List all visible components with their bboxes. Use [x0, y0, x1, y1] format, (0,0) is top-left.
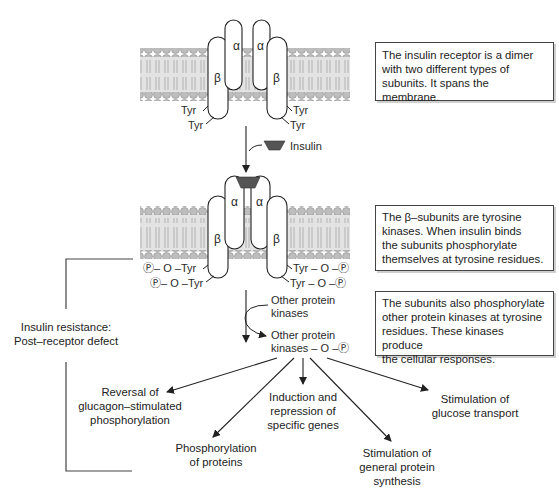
kinase-active-line2: kinases – O –Ⓟ — [271, 342, 349, 354]
tyr-label: Tyr — [293, 104, 309, 116]
info-box-receptor-structure: The insulin receptor is a dimer with two… — [375, 42, 554, 101]
info-text: The insulin receptor is a dimer — [382, 48, 547, 62]
label-line: Induction and — [258, 390, 348, 404]
beta-label: β — [273, 71, 280, 85]
label-line: Stimulation of — [425, 392, 525, 406]
info-box-downstream-kinases: The subunits also phosphorylate other pr… — [375, 291, 554, 356]
label-line: phosphorylation — [70, 413, 190, 427]
label-line: Stimulation of — [352, 446, 442, 460]
membrane-top — [140, 48, 350, 101]
label-line: general protein — [352, 460, 442, 474]
label-line: Post–receptor defect — [0, 334, 132, 348]
info-text: the subunits phosphorylate — [382, 238, 547, 252]
info-text: The subunits also phosphorylate — [382, 296, 547, 310]
tyr-label: Tyr — [181, 104, 197, 116]
outcome-glucose-transport: Stimulation of glucose transport — [425, 392, 525, 420]
phospho-tyr-left: Ⓟ– O –Tyr — [143, 262, 197, 274]
info-text: The β–subunits are tyrosine — [382, 210, 547, 224]
outcome-phosphorylation-proteins: Phosphorylation of proteins — [166, 441, 266, 469]
info-text: other protein kinases at tyrosine — [382, 310, 547, 324]
outcome-protein-synthesis: Stimulation of general protein synthesis — [352, 446, 442, 488]
insulin-label: Insulin — [290, 140, 322, 152]
kinase-inactive-line2: kinases — [271, 307, 309, 319]
info-box-beta-kinase: The β–subunits are tyrosine kinases. Whe… — [375, 205, 554, 271]
label-line: repression of — [258, 404, 348, 418]
kinase-inactive-line1: Other protein — [271, 294, 335, 306]
info-text: residues. These kinases produce — [382, 324, 547, 352]
alpha-label: α — [233, 39, 240, 53]
membrane-bottom — [140, 206, 350, 259]
beta-label: β — [214, 232, 221, 246]
label-line: Phosphorylation — [166, 441, 266, 455]
label-line: glucagon–stimulated — [70, 399, 190, 413]
resistance-bracket — [66, 259, 133, 471]
phospho-tyr-right: Tyr – O –Ⓟ — [293, 262, 349, 274]
label-line: Insulin resistance: — [0, 320, 132, 334]
beta-label: β — [214, 71, 221, 85]
beta-label: β — [273, 232, 280, 246]
alpha-label: α — [256, 195, 263, 209]
info-text: kinases. When insulin binds — [382, 224, 547, 238]
outcome-reversal-glucagon: Reversal of glucagon–stimulated phosphor… — [70, 385, 190, 427]
phospho-tyr-left: Ⓟ– O –Tyr — [150, 277, 204, 289]
label-line: Reversal of — [70, 385, 190, 399]
label-line: of proteins — [166, 455, 266, 469]
info-text: the cellular responses. — [382, 352, 547, 366]
kinase-curve-arrow — [245, 305, 268, 336]
label-line: synthesis — [352, 474, 442, 488]
insulin-resistance-label: Insulin resistance: Post–receptor defect — [0, 320, 132, 348]
tyr-label: Tyr — [290, 119, 306, 131]
kinase-active-line1: Other protein — [271, 329, 335, 341]
alpha-label: α — [257, 39, 264, 53]
info-text: with two different types of — [382, 62, 547, 76]
info-text: subunits. It spans the membrane. — [382, 76, 547, 104]
insulin-icon — [264, 141, 285, 150]
info-text: themselves at tyrosine residues. — [382, 252, 547, 266]
label-line: glucose transport — [425, 406, 525, 420]
tyr-label: Tyr — [188, 119, 204, 131]
outcome-gene-regulation: Induction and repression of specific gen… — [258, 390, 348, 432]
insulin-connector — [249, 145, 262, 151]
phospho-tyr-right: Tyr – O –Ⓟ — [290, 277, 346, 289]
alpha-label: α — [231, 195, 238, 209]
label-line: specific genes — [258, 418, 348, 432]
